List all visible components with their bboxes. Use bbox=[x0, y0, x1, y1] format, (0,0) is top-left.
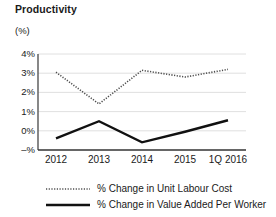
legend-label-unit-labour-cost: % Change in Unit Labour Cost bbox=[97, 184, 232, 194]
x-tick-label: 2013 bbox=[88, 155, 110, 165]
chart-legend: % Change in Unit Labour Cost % Change in… bbox=[0, 181, 276, 213]
legend-item-value-added-per-worker: % Change in Value Added Per Worker bbox=[0, 197, 276, 213]
solid-line-icon bbox=[46, 200, 90, 210]
gridlines bbox=[38, 54, 246, 131]
x-tick-label: 1Q 2016 bbox=[209, 155, 247, 165]
axis-lines bbox=[38, 54, 246, 150]
series-line-unit-labour-cost bbox=[56, 69, 228, 104]
productivity-chart-figure: Productivity (%) 4%3%2%1%0%–% 2012201320… bbox=[0, 0, 276, 217]
x-axis-tick-labels: 20122013201420151Q 2016 bbox=[0, 155, 276, 171]
legend-item-unit-labour-cost: % Change in Unit Labour Cost bbox=[0, 181, 276, 197]
x-tick-label: 2012 bbox=[45, 155, 67, 165]
legend-label-value-added-per-worker: % Change in Value Added Per Worker bbox=[97, 200, 266, 210]
x-tick-label: 2014 bbox=[131, 155, 153, 165]
dotted-line-icon bbox=[46, 184, 90, 194]
x-tick-label: 2015 bbox=[174, 155, 196, 165]
data-series-group bbox=[56, 69, 228, 142]
series-line-value-added-per-worker bbox=[56, 120, 228, 142]
